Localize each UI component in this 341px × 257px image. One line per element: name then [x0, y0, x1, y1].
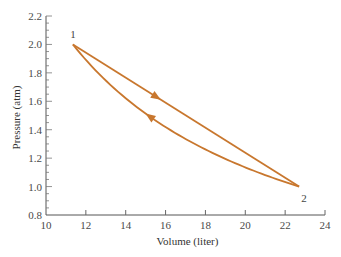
plot-area: 12 — [70, 28, 307, 203]
y-tick-label: 0.8 — [28, 209, 42, 221]
x-tick-label: 12 — [80, 219, 91, 231]
x-tick-label: 22 — [280, 219, 291, 231]
point-label-2: 2 — [301, 192, 307, 204]
y-axis-title: Pressure (atm) — [10, 85, 23, 149]
arrow-icon-down-right — [150, 91, 163, 103]
x-tick-label: 20 — [240, 219, 252, 231]
arrow-icon-up-left — [143, 110, 156, 122]
pv-diagram-chart: 1012141618202224 0.81.01.21.41.61.82.02.… — [0, 0, 341, 257]
path-1-to-2 — [73, 44, 299, 186]
x-tick-label: 24 — [320, 219, 332, 231]
y-tick-label: 1.4 — [28, 124, 42, 136]
x-ticks: 1012141618202224 — [41, 210, 332, 231]
point-label-1: 1 — [70, 28, 76, 40]
y-tick-label: 1.8 — [28, 67, 42, 79]
x-tick-label: 16 — [160, 219, 172, 231]
axes: 1012141618202224 0.81.01.21.41.61.82.02.… — [28, 10, 331, 231]
y-tick-label: 2.0 — [28, 38, 42, 50]
y-tick-label: 1.0 — [28, 181, 42, 193]
y-tick-label: 2.2 — [28, 10, 42, 22]
y-tick-label: 1.6 — [28, 95, 42, 107]
y-tick-label: 1.2 — [28, 152, 42, 164]
y-ticks: 0.81.01.21.41.61.82.02.2 — [28, 10, 52, 221]
x-tick-label: 10 — [41, 219, 53, 231]
x-tick-label: 14 — [120, 219, 132, 231]
x-tick-label: 18 — [200, 219, 212, 231]
x-axis-title: Volume (liter) — [157, 235, 219, 248]
